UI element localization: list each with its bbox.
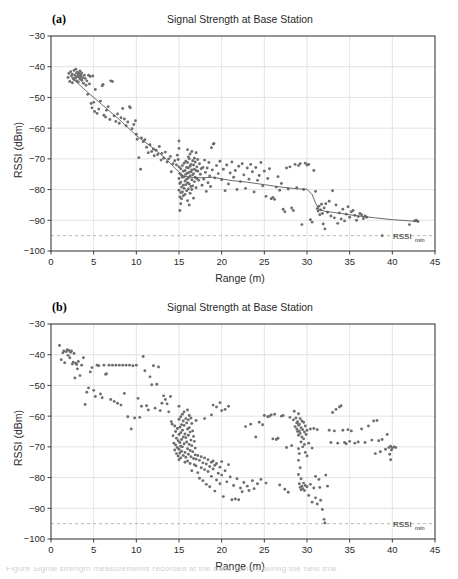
svg-text:−40: −40: [29, 61, 45, 72]
svg-text:−50: −50: [29, 92, 45, 103]
svg-text:−90: −90: [29, 503, 45, 514]
signal-strength-figure: (a) Signal Strength at Base Station 0510…: [0, 0, 458, 579]
svg-text:25: 25: [259, 544, 270, 555]
svg-text:5: 5: [91, 256, 96, 267]
svg-text:−80: −80: [29, 184, 45, 195]
panel-b: (b) Signal Strength at Base Station 0510…: [0, 288, 458, 579]
svg-text:−30: −30: [29, 30, 45, 41]
rssi-min-label: RSSI: [393, 232, 412, 241]
caption-ghost-text: Figure Signal strength measurements reco…: [6, 567, 337, 573]
svg-text:−80: −80: [29, 472, 45, 483]
svg-text:−70: −70: [29, 441, 45, 452]
svg-text:25: 25: [259, 256, 270, 267]
gridlines: [51, 36, 435, 251]
caption-strip: Figure Signal strength measurements reco…: [0, 567, 458, 579]
rssi-min-subscript: min: [415, 237, 425, 243]
svg-text:−30: −30: [29, 318, 45, 329]
data-points: [67, 68, 420, 237]
svg-text:45: 45: [430, 544, 441, 555]
rssi-min-label: RSSI: [393, 520, 412, 529]
svg-text:10: 10: [131, 544, 142, 555]
svg-text:0: 0: [48, 256, 53, 267]
svg-text:5: 5: [91, 544, 96, 555]
axis-ticks: 051015202530354045−100−90−80−70−60−50−40…: [24, 30, 441, 267]
panel-a-plot: 051015202530354045−100−90−80−70−60−50−40…: [0, 0, 458, 290]
svg-text:−60: −60: [29, 123, 45, 134]
svg-text:−90: −90: [29, 215, 45, 226]
svg-text:30: 30: [302, 544, 313, 555]
svg-text:−40: −40: [29, 349, 45, 360]
plot-frame: [51, 324, 435, 539]
svg-text:10: 10: [131, 256, 142, 267]
svg-text:35: 35: [344, 544, 355, 555]
svg-text:−100: −100: [24, 533, 45, 544]
trend-line: [73, 79, 418, 222]
gridlines: [51, 324, 435, 539]
panel-b-yaxis-title: RSSI (dBm): [12, 410, 24, 466]
plot-frame: [51, 36, 435, 251]
svg-text:0: 0: [48, 544, 53, 555]
svg-text:30: 30: [302, 256, 313, 267]
svg-text:20: 20: [216, 544, 227, 555]
svg-text:15: 15: [174, 544, 185, 555]
svg-text:−70: −70: [29, 153, 45, 164]
svg-text:40: 40: [387, 544, 398, 555]
axis-ticks: 051015202530354045−100−90−80−70−60−50−40…: [24, 318, 441, 555]
panel-a-yaxis-title: RSSI (dBm): [12, 122, 24, 178]
panel-b-plot: 051015202530354045−100−90−80−70−60−50−40…: [0, 288, 458, 579]
rssi-min-subscript: min: [415, 525, 425, 531]
svg-text:40: 40: [387, 256, 398, 267]
panel-a: (a) Signal Strength at Base Station 0510…: [0, 0, 458, 290]
data-points: [58, 344, 397, 524]
svg-text:35: 35: [344, 256, 355, 267]
svg-text:15: 15: [174, 256, 185, 267]
svg-text:−50: −50: [29, 380, 45, 391]
svg-text:45: 45: [430, 256, 441, 267]
svg-text:20: 20: [216, 256, 227, 267]
panel-a-xaxis-title: Range (m): [160, 272, 320, 284]
svg-text:−100: −100: [24, 245, 45, 256]
svg-text:−60: −60: [29, 411, 45, 422]
